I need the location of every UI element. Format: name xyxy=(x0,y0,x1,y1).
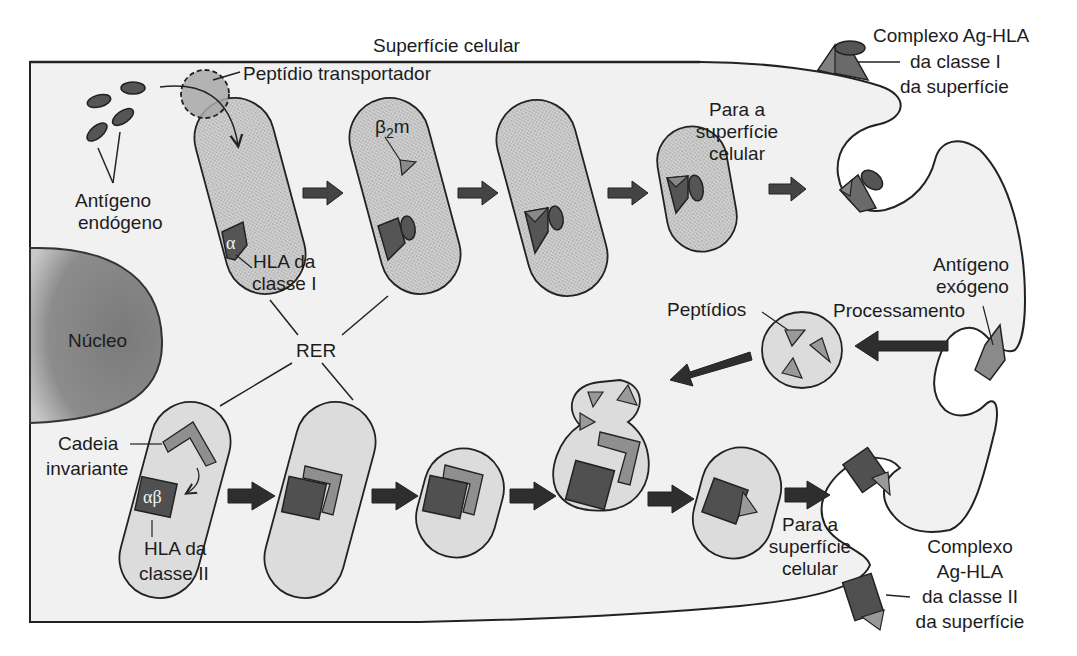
to-surface-bottom-3: celular xyxy=(782,558,839,579)
hla-class1-label-2: classe I xyxy=(252,273,316,294)
endogenous-antigen-label-1: Antígeno xyxy=(75,190,151,211)
complex-class1-label-2: da classe I xyxy=(910,51,1001,72)
cell-surface-label: Superfície celular xyxy=(373,35,520,56)
complex-class2-label-1: Complexo xyxy=(927,536,1013,557)
transporter-peptide-label: Peptídio transportador xyxy=(243,63,432,84)
alpha-label: α xyxy=(226,233,236,253)
complex-class2-label-2: Ag-HLA xyxy=(937,561,1004,582)
hla-class2-label-1: HLA da xyxy=(144,538,207,559)
to-surface-bottom-2: superfície xyxy=(769,536,851,557)
to-surface-top-2: superfície xyxy=(696,121,778,142)
peptides-label: Peptídios xyxy=(667,299,746,320)
to-surface-top-1: Para a xyxy=(709,99,765,120)
to-surface-top-3: celular xyxy=(709,143,766,164)
complex-class1-label-1: Complexo Ag-HLA xyxy=(873,25,1030,46)
complex-class1-label-3: da superfície xyxy=(900,76,1009,97)
endogenous-antigen-label-2: endógeno xyxy=(78,212,163,233)
peptide-vesicle xyxy=(762,312,842,388)
alphabeta-label: αβ xyxy=(143,487,162,507)
hla-class2-label-2: classe II xyxy=(139,563,209,584)
processing-label: Processamento xyxy=(833,300,965,321)
invariant-chain-label-1: Cadeia xyxy=(58,433,119,454)
nucleus-label: Núcleo xyxy=(68,330,127,351)
exogenous-antigen-label-1: Antígeno xyxy=(933,254,1009,275)
exogenous-antigen-label-2: exógeno xyxy=(936,276,1009,297)
antigen-presentation-diagram: Núcleo Superfície celular Antígeno endóg… xyxy=(0,0,1077,656)
hla-class1-label-1: HLA da xyxy=(253,251,316,272)
complex-class2-label-3: da classe II xyxy=(922,586,1018,607)
to-surface-bottom-1: Para a xyxy=(782,514,838,535)
rer-label: RER xyxy=(296,340,336,361)
complex-class2-label-4: da superfície xyxy=(916,611,1025,632)
surface-hla-class2-complex xyxy=(843,573,910,630)
invariant-chain-label-2: invariante xyxy=(46,458,128,479)
